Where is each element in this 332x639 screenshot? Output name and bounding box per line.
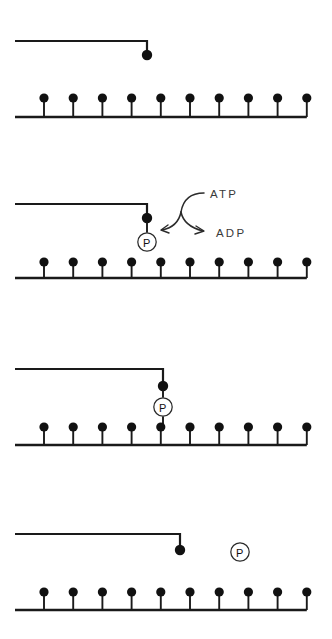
- actin-monomer-dot: [273, 422, 282, 431]
- myosin-head: [142, 50, 152, 60]
- actin-monomer: [39, 422, 48, 445]
- actin-monomer: [215, 257, 224, 278]
- actin-monomer-dot: [273, 587, 282, 596]
- myosin-tail-arm: [15, 534, 180, 546]
- actin-monomer: [127, 257, 136, 278]
- cross-bridge-cycle-figure: PATPADPPP: [0, 0, 332, 639]
- actin-monomer: [39, 93, 48, 117]
- phosphate-group: P: [231, 543, 249, 561]
- actin-monomer-dot: [98, 422, 107, 431]
- actin-monomer: [302, 257, 311, 278]
- actin-monomer-dot: [215, 587, 224, 596]
- actin-monomer: [156, 422, 165, 445]
- actin-monomer: [215, 422, 224, 445]
- actin-monomer-dot: [185, 257, 194, 266]
- actin-monomer-dot: [215, 257, 224, 266]
- actin-monomer: [127, 422, 136, 445]
- actin-monomer-dot: [185, 93, 194, 102]
- atp-hydrolysis-phosphorylation: PATPADP: [15, 188, 311, 278]
- actin-monomer: [273, 257, 282, 278]
- actin-monomer-dot: [69, 93, 78, 102]
- actin-monomer-dot: [98, 93, 107, 102]
- actin-monomer: [185, 422, 194, 445]
- myosin-tail-arm: [15, 41, 147, 51]
- actin-monomer: [185, 93, 194, 117]
- phosphate-label: P: [159, 402, 167, 414]
- actin-monomer-dot: [185, 587, 194, 596]
- actin-monomer: [302, 93, 311, 117]
- actin-monomer-dot: [127, 93, 136, 102]
- actin-monomer-dot: [69, 587, 78, 596]
- actin-monomer-dot: [244, 257, 253, 266]
- actin-monomer-dot: [156, 93, 165, 102]
- actin-monomer: [98, 422, 107, 445]
- phosphate-label: P: [143, 237, 151, 249]
- actin-monomer: [273, 422, 282, 445]
- phosphate-released-after-power-stroke: P: [15, 534, 311, 610]
- actin-monomer: [302, 587, 311, 610]
- actin-monomer: [244, 257, 253, 278]
- actin-monomer-dot: [127, 422, 136, 431]
- actin-monomer: [156, 93, 165, 117]
- actin-monomer-dot: [98, 257, 107, 266]
- actin-monomer-dot: [302, 93, 311, 102]
- atp-adp-reaction-arrow: ATPADP: [161, 188, 246, 239]
- actin-monomer: [244, 587, 253, 610]
- actin-monomer-dot: [156, 257, 165, 266]
- actin-monomer: [185, 257, 194, 278]
- myosin-tail-arm: [15, 204, 147, 214]
- atp-label: ATP: [210, 188, 238, 200]
- actin-monomer-dot: [302, 587, 311, 596]
- actin-monomer-dot: [273, 93, 282, 102]
- actin-monomer-dot: [244, 93, 253, 102]
- actin-monomer: [98, 587, 107, 610]
- myosin-head: [142, 213, 152, 223]
- phosphate-group: P: [154, 390, 172, 427]
- actin-monomer-dot: [69, 257, 78, 266]
- actin-monomer: [215, 93, 224, 117]
- myosin-head: [158, 381, 168, 391]
- phosphate-group: P: [138, 222, 156, 251]
- actin-monomer-dot: [98, 587, 107, 596]
- actin-monomer: [215, 587, 224, 610]
- diagram-canvas: PATPADPPP: [0, 0, 332, 639]
- actin-monomer-dot: [273, 257, 282, 266]
- actin-monomer: [98, 93, 107, 117]
- actin-monomer: [69, 257, 78, 278]
- actin-monomer-dot: [302, 422, 311, 431]
- actin-monomer-dot: [215, 93, 224, 102]
- actin-monomer: [273, 93, 282, 117]
- actin-monomer-dot: [127, 257, 136, 266]
- phosphate-label: P: [236, 547, 244, 559]
- atp-inflow-curve: [181, 193, 204, 212]
- actin-monomer: [244, 422, 253, 445]
- actin-monomer: [273, 587, 282, 610]
- myosin-head: [175, 545, 185, 555]
- adp-label: ADP: [216, 227, 246, 239]
- actin-monomer: [69, 587, 78, 610]
- phosphorylated-head-bound-to-actin: P: [15, 369, 311, 445]
- actin-monomer-dot: [39, 93, 48, 102]
- actin-monomer: [127, 93, 136, 117]
- actin-monomer: [244, 93, 253, 117]
- actin-monomer: [156, 257, 165, 278]
- actin-monomer: [156, 587, 165, 610]
- actin-monomer-dot: [39, 422, 48, 431]
- actin-monomer-dot: [215, 422, 224, 431]
- actin-monomer: [98, 257, 107, 278]
- actin-monomer-dot: [156, 587, 165, 596]
- actin-monomer-dot: [185, 422, 194, 431]
- actin-monomer: [39, 257, 48, 278]
- actin-monomer-dot: [69, 422, 78, 431]
- actin-monomer: [127, 587, 136, 610]
- myosin-detached-unphosphorylated: [15, 41, 311, 117]
- actin-monomer: [302, 422, 311, 445]
- actin-monomer-dot: [39, 587, 48, 596]
- actin-monomer-dot: [244, 587, 253, 596]
- actin-monomer-dot: [302, 257, 311, 266]
- actin-monomer-dot: [156, 422, 165, 431]
- actin-monomer: [39, 587, 48, 610]
- myosin-tail-arm: [15, 369, 163, 382]
- actin-monomer: [185, 587, 194, 610]
- actin-monomer-dot: [39, 257, 48, 266]
